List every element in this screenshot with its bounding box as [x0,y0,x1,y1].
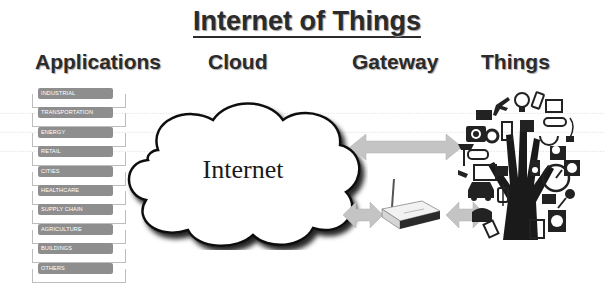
application-label: OTHERS [38,263,113,274]
application-item: BUILDINGS [30,243,130,262]
hand-tree-of-devices-icon [458,90,583,245]
gateway-node [378,175,442,239]
application-label: INDUSTRIAL [38,88,113,99]
bidirectional-arrow-icon [350,132,462,162]
application-label: RETAIL [38,146,113,157]
cloud-node: Internet [118,100,368,250]
application-item: CITIES [30,166,130,185]
application-label: TRANSPORTATION [38,107,113,118]
application-label: SUPPLY CHAIN [38,204,113,215]
diagram-title: Internet of Things [0,6,614,37]
column-heading-applications: Applications [35,50,161,74]
application-item: OTHERS [30,263,130,282]
application-label: ENERGY [38,127,113,138]
things-node [458,90,583,249]
application-item: ENERGY [30,127,130,146]
router-icon [378,175,442,235]
application-item: HEALTHCARE [30,185,130,204]
application-label: CITIES [38,166,113,177]
application-label: AGRICULTURE [38,224,113,235]
application-label: HEALTHCARE [38,185,113,196]
application-item: RETAIL [30,146,130,165]
application-item: TRANSPORTATION [30,107,130,126]
title-text: Internet of Things [193,6,421,38]
column-heading-things: Things [481,50,550,74]
application-item: AGRICULTURE [30,224,130,243]
column-heading-cloud: Cloud [208,50,267,74]
applications-list: INDUSTRIAL TRANSPORTATION ENERGY RETAIL … [30,88,130,282]
cloud-label: Internet [118,155,368,185]
application-item: INDUSTRIAL [30,88,130,107]
column-heading-gateway: Gateway [352,50,438,74]
application-label: BUILDINGS [38,243,113,254]
application-item: SUPPLY CHAIN [30,204,130,223]
bidirectional-arrow-icon [343,201,383,229]
